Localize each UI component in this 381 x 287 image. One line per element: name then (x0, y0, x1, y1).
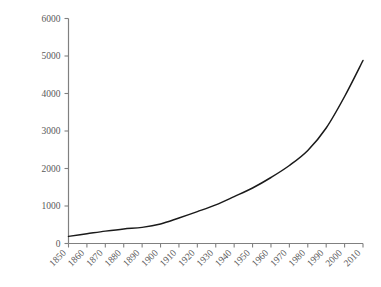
y-axis-tick-label: 6000 (42, 14, 61, 24)
y-axis-tick-label: 5000 (42, 51, 61, 61)
x-axis-tick-labels: 1850186018701880189019001910192019301940… (47, 248, 362, 269)
y-axis-tick-labels: 0100020003000400050006000 (42, 14, 61, 249)
x-axis-tick-label: 2000 (324, 248, 345, 269)
x-axis-tick-label: 1970 (268, 248, 289, 269)
x-axis-tick-label: 1960 (250, 248, 271, 269)
x-axis-tick-label: 1940 (213, 248, 234, 269)
x-axis-tick-label: 1930 (195, 248, 216, 269)
x-axis-tick-label: 1860 (66, 248, 87, 269)
x-axis-tick-label: 1910 (158, 248, 179, 269)
x-axis-tick-label: 1980 (287, 248, 308, 269)
x-axis-tick-label: 1900 (139, 248, 160, 269)
x-axis-tick-label: 1950 (231, 248, 252, 269)
x-axis-tick-label: 1870 (84, 248, 105, 269)
x-axis-tick-label: 1880 (103, 248, 124, 269)
data-series-line (69, 61, 364, 237)
x-axis-tick-label: 1920 (176, 248, 197, 269)
x-axis-tick-marks (69, 244, 364, 248)
chart-container: million troy oz. 01000200030004000500060… (0, 0, 381, 287)
x-axis-tick-label: 2010 (342, 248, 363, 269)
line-chart-plot: 0100020003000400050006000 18501860187018… (0, 0, 381, 287)
y-axis-tick-label: 4000 (42, 89, 61, 99)
y-axis-tick-label: 2000 (42, 164, 61, 174)
x-axis-tick-label: 1850 (47, 248, 68, 269)
x-axis-tick-label: 1890 (121, 248, 142, 269)
y-axis-tick-label: 1000 (42, 201, 61, 211)
x-axis-tick-label: 1990 (305, 248, 326, 269)
y-axis-tick-label: 3000 (42, 126, 61, 136)
